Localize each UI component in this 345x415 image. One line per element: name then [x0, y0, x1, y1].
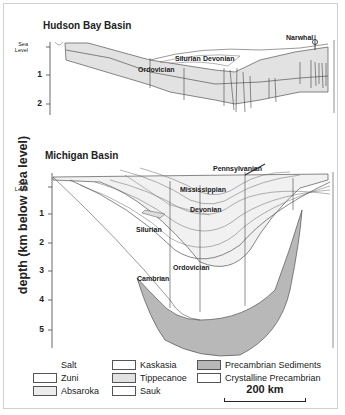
narwhal-well-icon: [313, 35, 318, 50]
label-silurian-michigan: Silurian: [136, 226, 162, 233]
legend-precambrian-sediments: Precambrian Sediments: [197, 360, 321, 370]
michigan-tick-2: 2: [30, 237, 44, 247]
legend-kaskasia: Kaskasia: [112, 360, 177, 370]
michigan-tick-3: 3: [30, 265, 44, 275]
label-devonian-michigan: Devonian: [190, 206, 222, 213]
label-mississippian: Mississippian: [180, 186, 226, 193]
label-ordovician-michigan: Ordovician: [173, 264, 210, 271]
michigan-tick-4: 4: [30, 294, 44, 304]
swatch-crystalline-precambrian: [197, 373, 221, 383]
legend-tippecanoe: Tippecanoe: [112, 373, 187, 383]
cross-sections-drawing: [0, 0, 345, 415]
michigan-axis: [48, 173, 52, 348]
scale-bar-label: 200 km: [224, 383, 306, 395]
label-cambrian: Cambrian: [137, 275, 169, 282]
michigan-sea-level-label: SeaLevel: [8, 180, 28, 192]
label-devonian-hudson: Devonian: [203, 55, 235, 62]
michigan-tick-1: 1: [30, 208, 44, 218]
legend-label: Kaskasia: [140, 360, 177, 370]
legend-crystalline-precambrian: Crystalline Precambrian: [197, 373, 321, 383]
michigan-title: Michigan Basin: [45, 150, 118, 161]
label-pennsylvanian: Pennsylvanian: [213, 165, 262, 172]
label-ordovician-hudson: Ordovician: [138, 66, 175, 73]
hudson-axis: [46, 42, 50, 115]
swatch-absaroka: [33, 386, 57, 396]
swatch-precambrian-sediments: [197, 360, 221, 370]
swatch-sauk: [112, 386, 136, 396]
legend-absaroka: Absaroka: [33, 386, 99, 396]
legend-zuni: Zuni: [33, 373, 79, 383]
scale-bar: [224, 398, 306, 402]
legend-label: Salt: [61, 360, 77, 370]
legend-label: Precambrian Sediments: [225, 360, 321, 370]
hudson-basin-strata: [55, 42, 328, 104]
legend-label: Sauk: [140, 386, 161, 396]
legend-sauk: Sauk: [112, 386, 161, 396]
legend-label: Absaroka: [61, 386, 99, 396]
label-narwhal: Narwhal: [286, 34, 313, 41]
legend-label: Tippecanoe: [140, 373, 187, 383]
legend-label: Crystalline Precambrian: [225, 373, 321, 383]
swatch-kaskasia: [112, 360, 136, 370]
label-silurian-hudson: Silurian: [175, 55, 201, 62]
swatch-zuni: [33, 373, 57, 383]
swatch-tippecanoe: [112, 373, 136, 383]
legend-label: Zuni: [61, 373, 79, 383]
legend-salt: Salt: [61, 360, 77, 370]
michigan-tick-5: 5: [30, 324, 44, 334]
